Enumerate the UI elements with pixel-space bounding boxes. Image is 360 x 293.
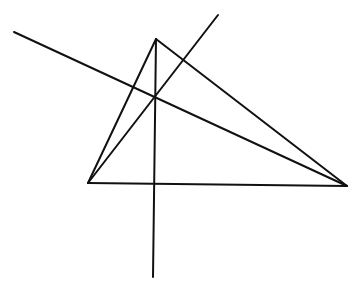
triangle-edge-ab — [88, 39, 156, 183]
triangle-altitudes-diagram — [0, 0, 360, 293]
altitude-from-a — [153, 39, 156, 277]
triangle — [88, 39, 347, 186]
altitude-lines — [14, 15, 347, 277]
altitude-from-c — [14, 32, 347, 186]
triangle-edge-ca — [156, 39, 347, 186]
altitude-from-b — [88, 15, 218, 183]
triangle-edge-bc — [88, 183, 347, 186]
